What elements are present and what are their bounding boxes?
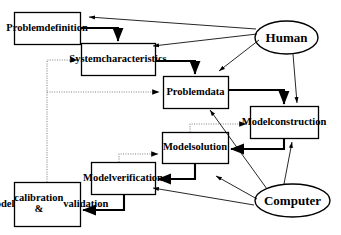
node-computer[interactable] [255,184,330,217]
node-human[interactable] [255,21,318,54]
diagram-svg [0,0,341,235]
edge-ms-to-mc [190,124,246,132]
edge-computer-to-mv [153,188,254,205]
edge-sc-to-pdata [155,61,195,74]
node-model_solution[interactable] [163,133,229,164]
edge-computer-to-ms [216,176,257,199]
node-problem_definition[interactable] [15,13,81,45]
edge-mc-to-ms [231,138,284,149]
node-shapes-layer [15,13,331,227]
edge-mv-to-ms [119,154,158,162]
edge-human-to-pdata [219,40,259,71]
node-model_calibration[interactable] [15,183,81,227]
node-model_construction[interactable] [251,107,319,139]
edge-pd-to-sc [80,28,118,41]
edge-mv-to-mcal [83,194,124,210]
node-problem_data[interactable] [164,77,229,109]
edge-computer-to-mc [284,142,292,184]
edge-human-to-mc [293,54,297,103]
edge-ms-to-mv [158,163,195,179]
edge-pdata-to-mc [228,90,284,104]
node-model_verification[interactable] [92,163,156,195]
node-system_characteristics[interactable] [82,44,156,76]
diagram-canvas: ProblemdefinitionSystemcharacteristicsPr… [0,0,341,235]
edge-human-to-sc [153,34,257,46]
edge-mcal-to-sc [47,60,77,182]
